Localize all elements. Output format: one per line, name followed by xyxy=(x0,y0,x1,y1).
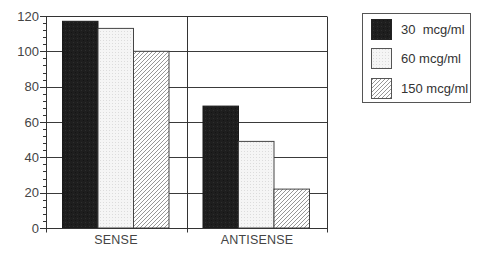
bar-antisense-diagonal-hatch xyxy=(274,189,310,228)
y-axis-labels: 0 20 40 60 80 100 120 xyxy=(17,9,39,236)
bar-chart: 0 20 40 60 80 100 120 SENSE ANTISENSE 30… xyxy=(0,0,490,256)
y-tick-label-80: 80 xyxy=(25,79,39,94)
bar-sense-diagonal-hatch xyxy=(134,51,170,228)
bar-antisense-solid-black xyxy=(203,106,239,228)
bar-antisense-light-stipple xyxy=(239,141,275,228)
category-label-antisense: ANTISENSE xyxy=(221,233,294,247)
bar-sense-solid-black xyxy=(63,21,99,228)
legend: 30 mcg/ml 60 mcg/ml 150 mcg/ml xyxy=(363,14,471,103)
y-tick-label-20: 20 xyxy=(25,185,39,200)
y-tick-label-60: 60 xyxy=(25,115,39,130)
y-tick-label-120: 120 xyxy=(17,9,39,24)
y-axis-ticks xyxy=(40,17,46,229)
y-tick-label-100: 100 xyxy=(17,44,39,59)
bar-sense-light-stipple xyxy=(98,28,134,228)
y-tick-label-40: 40 xyxy=(25,150,39,165)
x-axis-labels: SENSE ANTISENSE xyxy=(94,233,293,247)
legend-label: 30 mcg/ml xyxy=(401,22,465,37)
legend-swatch-diagonal-hatch xyxy=(372,79,392,99)
legend-label: 150 mcg/ml xyxy=(401,81,468,96)
bars xyxy=(63,21,310,228)
legend-swatch-solid-black xyxy=(372,20,392,40)
legend-swatch-light-stipple xyxy=(372,49,392,69)
category-label-sense: SENSE xyxy=(94,233,137,247)
y-tick-label-0: 0 xyxy=(32,221,39,236)
legend-label: 60 mcg/ml xyxy=(401,51,461,66)
